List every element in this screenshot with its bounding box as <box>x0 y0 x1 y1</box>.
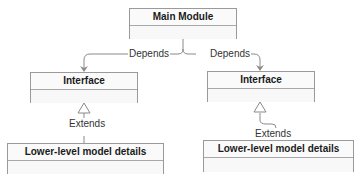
interface-left-title: Interface <box>31 73 137 90</box>
main-module-body <box>130 26 236 39</box>
lower-left-title: Lower-level model details <box>8 144 163 161</box>
interface-right-title: Interface <box>208 72 314 89</box>
lower-left-box[interactable]: Lower-level model details <box>7 143 164 174</box>
interface-left-body <box>31 90 137 103</box>
main-module-title: Main Module <box>130 9 236 26</box>
depends-right-label: Depends <box>209 48 251 60</box>
interface-right-box[interactable]: Interface <box>207 71 315 102</box>
lower-right-title: Lower-level model details <box>204 141 353 158</box>
interface-left-box[interactable]: Interface <box>30 72 138 103</box>
lower-left-body <box>8 161 163 174</box>
depends-left-label: Depends <box>128 48 170 60</box>
lower-right-box[interactable]: Lower-level model details <box>203 140 354 172</box>
extends-right-label: Extends <box>254 128 292 140</box>
interface-right-body <box>208 89 314 102</box>
extends-left-label: Extends <box>68 118 106 130</box>
lower-right-body <box>204 158 353 172</box>
main-module-box[interactable]: Main Module <box>129 8 237 39</box>
